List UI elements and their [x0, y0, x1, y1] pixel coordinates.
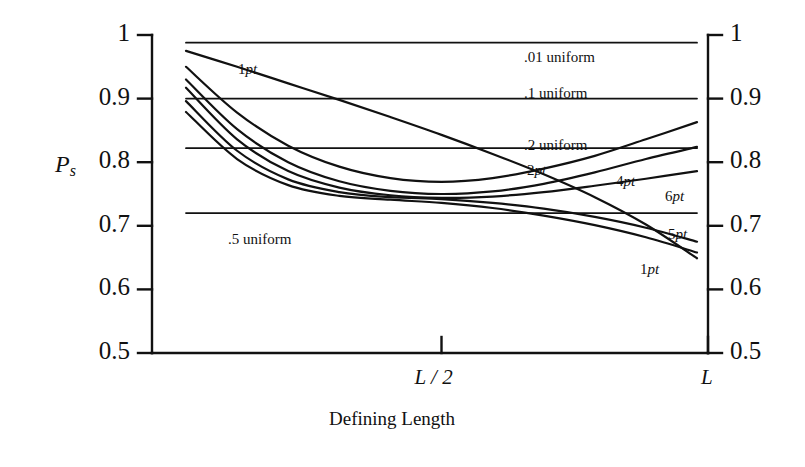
annotation--01-uniform-1: .01 uniform: [524, 50, 595, 65]
y-tick-label-right-5: 0.5: [730, 338, 761, 363]
annotation-2pt-4: 2pt: [527, 163, 546, 178]
annotation--1-uniform-2: .1 uniform: [524, 86, 587, 101]
annotation--5-uniform-8: .5 uniform: [228, 232, 291, 247]
y-tick-label-left-2: 0.8: [99, 147, 130, 172]
y-tick-label-right-2: 0.8: [730, 147, 761, 172]
y-tick-label-right-0: 1: [730, 20, 743, 45]
y-tick-label-left-1: 0.9: [99, 84, 130, 109]
y-tick-label-right-4: 0.6: [730, 274, 761, 299]
annotation-1pt-9: 1pt: [640, 262, 659, 277]
x-axis-caption: Defining Length: [329, 409, 455, 428]
y-tick-label-right-1: 0.9: [730, 84, 761, 109]
y-tick-label-right-3: 0.7: [730, 211, 761, 236]
y-axis-title: Ps: [55, 152, 76, 179]
annotation-5pt-7: 5pt: [668, 227, 687, 242]
annotation-1pt-0: 1pt: [238, 62, 257, 77]
y-tick-label-left-3: 0.7: [99, 211, 130, 236]
y-tick-label-left-0: 1: [118, 20, 131, 45]
y-axis-title-sub: s: [70, 162, 76, 179]
annotation--2-uniform-3: .2 uniform: [524, 138, 587, 153]
y-axis-title-main: P: [55, 151, 70, 177]
annotation-4pt-5: 4pt: [616, 174, 635, 189]
y-tick-label-left-4: 0.6: [99, 274, 130, 299]
annotation-6pt-6: 6pt: [665, 189, 684, 204]
chart-figure: Ps 10.90.80.70.60.5 10.90.80.70.60.5 L /…: [0, 0, 805, 467]
x-tick-label-mid: L / 2: [415, 367, 453, 388]
x-tick-label-end: L: [701, 367, 713, 388]
y-tick-label-left-5: 0.5: [99, 338, 130, 363]
